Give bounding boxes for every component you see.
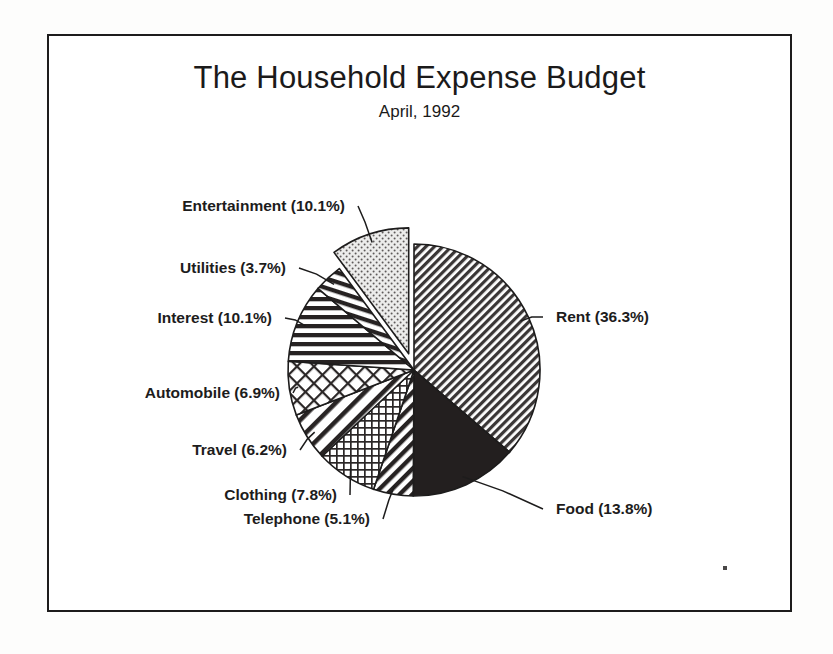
pie-label-food: Food (13.8%) (556, 500, 652, 517)
pie-label-utilities: Utilities (3.7%) (180, 259, 286, 276)
pie-slice-group (288, 228, 540, 496)
pie-chart: Rent (36.3%)Food (13.8%)Telephone (5.1%)… (0, 0, 833, 654)
scan-speck (723, 566, 727, 570)
pie-label-interest: Interest (10.1%) (157, 309, 272, 326)
pie-label-clothing: Clothing (7.8%) (224, 486, 337, 503)
leader-line-clothing (350, 469, 351, 495)
pie-label-entertainment: Entertainment (10.1%) (182, 197, 345, 214)
pie-label-automobile: Automobile (6.9%) (145, 384, 280, 401)
pie-label-travel: Travel (6.2%) (192, 441, 287, 458)
page-canvas: The Household Expense Budget April, 1992 (0, 0, 833, 654)
pie-label-telephone: Telephone (5.1%) (244, 510, 370, 527)
pie-label-rent: Rent (36.3%) (556, 308, 649, 325)
leader-line-food (463, 477, 543, 509)
